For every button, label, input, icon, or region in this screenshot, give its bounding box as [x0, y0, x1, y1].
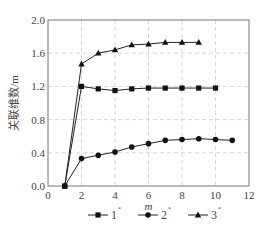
x-tick-label: 12: [244, 189, 255, 201]
x-tick-label: 2: [79, 189, 85, 201]
series-1: [62, 84, 218, 189]
circle-marker-icon: [95, 152, 101, 158]
circle-marker-icon: [112, 149, 118, 155]
legend-item-1: 1*: [88, 206, 121, 222]
legend: 1*2*3*: [88, 206, 221, 222]
square-marker-icon: [129, 86, 134, 91]
legend-item-2: 2*: [138, 206, 171, 222]
y-tick-label: 0.0: [31, 180, 45, 192]
legend-superscript: *: [218, 206, 221, 212]
circle-marker-icon: [79, 156, 85, 162]
legend-superscript: *: [118, 206, 121, 212]
circle-marker-icon: [213, 137, 219, 143]
circle-marker-icon: [162, 138, 168, 144]
circle-marker-icon: [145, 212, 151, 218]
circle-marker-icon: [196, 136, 202, 142]
series-line: [65, 86, 216, 186]
x-tick-label: 10: [210, 189, 222, 201]
y-axis-label: 关联维数/m: [7, 75, 20, 131]
y-tick-label: 0.4: [31, 147, 45, 159]
square-marker-icon: [112, 88, 117, 93]
triangle-marker-icon: [78, 61, 84, 67]
legend-label: 3: [211, 208, 217, 222]
x-axis-label: m: [145, 200, 153, 212]
square-marker-icon: [196, 85, 201, 90]
square-marker-icon: [213, 85, 218, 90]
legend-item-3: 3*: [188, 206, 221, 222]
square-marker-icon: [179, 85, 184, 90]
legend-superscript: *: [168, 206, 171, 212]
y-tick-label: 1.2: [31, 80, 45, 92]
square-marker-icon: [79, 84, 84, 89]
series-3: [62, 39, 202, 188]
square-marker-icon: [96, 86, 101, 91]
circle-marker-icon: [229, 138, 235, 144]
legend-label: 1: [111, 208, 117, 222]
square-marker-icon: [95, 212, 100, 217]
x-tick-label: 0: [45, 189, 51, 201]
x-tick-label: 8: [179, 189, 185, 201]
line-chart: 0246810120.00.40.81.21.62.0m关联维数/m1*2*3*: [0, 0, 272, 234]
series-line: [65, 42, 199, 186]
square-marker-icon: [163, 85, 168, 90]
circle-marker-icon: [179, 137, 185, 143]
circle-marker-icon: [146, 141, 152, 147]
legend-label: 2: [161, 208, 167, 222]
square-marker-icon: [146, 85, 151, 90]
circle-marker-icon: [129, 144, 135, 150]
y-tick-label: 0.8: [31, 114, 45, 126]
x-tick-label: 4: [112, 189, 118, 201]
y-tick-label: 2.0: [31, 14, 45, 26]
y-tick-label: 1.6: [31, 47, 45, 59]
